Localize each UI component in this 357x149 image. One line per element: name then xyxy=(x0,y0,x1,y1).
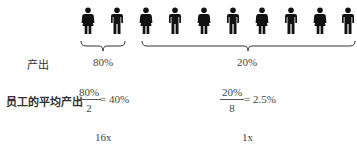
low-group-denominator: 8 xyxy=(229,100,235,115)
output-label: 产出 xyxy=(27,56,49,72)
person-male-icon xyxy=(284,7,298,35)
high-group-result: = 40% xyxy=(100,93,129,105)
avg-output-label: 员工的平均产出 xyxy=(6,93,83,109)
person-female-icon xyxy=(139,7,153,35)
person-male-icon xyxy=(226,7,240,35)
low-group-fraction: 20% 8 xyxy=(220,86,244,115)
high-group-multiplier: 16x xyxy=(95,131,112,143)
person-female-icon xyxy=(81,7,95,35)
brace-high-group xyxy=(80,40,126,52)
low-group-result: = 2.5% xyxy=(244,93,276,105)
high-group-fraction: 80% 2 xyxy=(77,86,101,115)
high-group-numerator: 80% xyxy=(77,86,101,100)
person-male-icon xyxy=(110,7,124,35)
person-female-icon xyxy=(313,7,327,35)
person-female-icon xyxy=(197,7,211,35)
low-group-numerator: 20% xyxy=(220,86,244,100)
brace-low-group xyxy=(141,40,356,52)
low-group-share: 20% xyxy=(237,56,257,68)
person-male-icon xyxy=(168,7,182,35)
person-male-icon xyxy=(341,7,355,35)
high-group-denominator: 2 xyxy=(86,100,92,115)
high-group-share: 80% xyxy=(93,56,113,68)
person-female-icon xyxy=(255,7,269,35)
low-group-multiplier: 1x xyxy=(242,131,253,143)
